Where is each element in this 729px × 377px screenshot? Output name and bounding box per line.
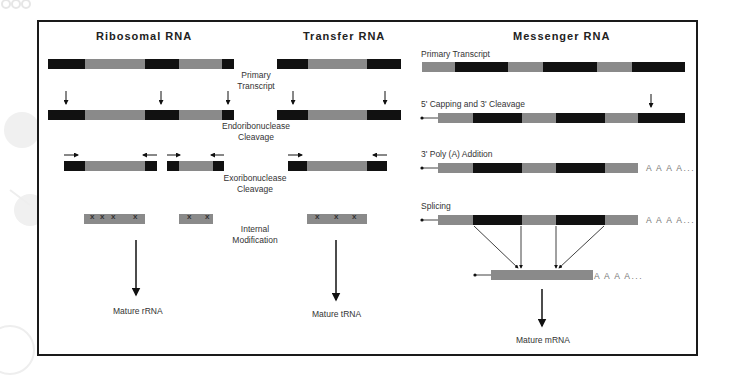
modification-mark: x	[352, 211, 356, 222]
mrna-splicing-arrows	[474, 226, 604, 268]
rrna-primary-transcript	[48, 59, 234, 69]
mrna-capping-cleavage-label: 5' Capping and 3' Cleavage	[421, 99, 525, 110]
modification-mark: x	[334, 211, 338, 222]
modification-mark: x	[133, 211, 137, 222]
mature-rrna-label: Mature rRNA	[113, 306, 163, 317]
mrna-polya-addition-label: 3' Poly (A) Addition	[421, 149, 493, 160]
endoribonuclease-cleavage-label: Endoribonuclease Cleavage	[222, 121, 290, 143]
rrna-exo-fragment-2	[167, 161, 224, 171]
mature-trna-label: Mature tRNA	[312, 309, 361, 320]
exoribonuclease-cleavage-label: Exoribonuclease Cleavage	[224, 173, 287, 195]
mature-mrna-label: Mature mRNA	[516, 335, 570, 346]
internal-modification-label: Internal Modification	[232, 224, 277, 246]
transfer-rna-title: Transfer RNA	[303, 30, 385, 42]
poly-a-tail: A A A A...	[594, 271, 643, 281]
ribosomal-rna-title: Ribosomal RNA	[96, 30, 192, 42]
mrna-splicing-label: Splicing	[421, 201, 451, 212]
trna-exo-fragment	[288, 161, 387, 171]
mrna-polyadenylated-transcript	[420, 163, 638, 173]
rna-processing-diagram	[0, 0, 729, 377]
trna-endo-cleaved-transcript	[277, 110, 401, 120]
rrna-endo-cleavage-arrows	[66, 91, 228, 104]
modification-mark: x	[111, 211, 115, 222]
rrna-exo-fragment-1	[64, 161, 157, 171]
modification-mark: x	[205, 211, 209, 222]
mrna-primary-transcript-label: Primary Transcript	[421, 49, 490, 60]
modification-mark: x	[315, 211, 319, 222]
mrna-primary-transcript	[422, 62, 685, 72]
mrna-splicing-transcript	[420, 215, 638, 225]
trna-endo-cleavage-arrows	[293, 91, 385, 104]
modification-mark: x	[90, 211, 94, 222]
primary-transcript-label: Primary Transcript	[237, 70, 274, 92]
mrna-capped-transcript	[420, 113, 685, 123]
modification-mark: x	[100, 211, 104, 222]
poly-a-tail: A A A A...	[646, 215, 695, 225]
trna-primary-transcript	[277, 59, 401, 69]
messenger-rna-title: Messenger RNA	[513, 30, 610, 42]
poly-a-tail: A A A A...	[646, 163, 695, 173]
rrna-endo-cleaved-transcript	[48, 110, 234, 120]
mrna-spliced-transcript	[473, 270, 593, 280]
modification-mark: x	[187, 211, 191, 222]
